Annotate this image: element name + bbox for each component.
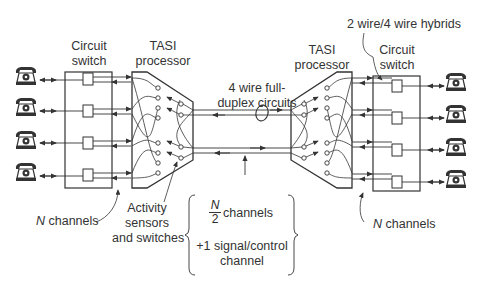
n-over-2-fraction: N 2 [209,199,221,226]
fraction-denominator: 2 [209,213,221,226]
brace-signal-label: +1 signal/control [190,239,294,254]
n-symbol: N [373,217,382,231]
n-symbol: N [36,214,45,228]
label-line: processor [136,54,191,68]
center-4wire-circuits [193,104,291,175]
right-4wire-links [352,78,392,179]
right-circuit-switch-label: Circuit switch [372,43,422,73]
label-line: duplex circuits [217,96,296,110]
left-phone-links [40,80,83,176]
right-tasi-label: TASI processor [287,43,357,73]
label-line: Circuit [71,39,106,53]
right-n-channels-label: N channels [373,217,436,232]
telephone-icon [446,73,466,91]
label-line: switch [72,54,107,68]
hybrids-label: 2 wire/4 wire hybrids [347,17,461,32]
telephone-icon [446,138,466,156]
label-line: sensors [125,216,169,230]
label-line: processor [295,58,350,72]
brace-channel-label: channel [190,254,294,269]
telephone-icon [16,131,36,149]
left-tasi-label: TASI processor [128,39,198,69]
label-line: and switches [112,231,184,245]
left-n-channels-label: N channels [36,214,99,229]
telephone-icon [16,98,36,116]
label-line: switch [380,58,415,72]
label-text: channels [45,214,99,228]
link-label: 4 wire full- duplex circuits [212,81,302,111]
telephone-icon [446,105,466,123]
activity-sensors-label: Activity sensors and switches [112,201,182,246]
fraction-numerator: N [209,199,221,213]
label-line: Circuit [379,43,414,57]
left-circuit-switch-label: Circuit switch [64,39,114,69]
label-line: 4 wire full- [229,81,286,95]
brace-channels-label: channels [223,206,273,221]
telephone-icon [16,163,36,181]
telephone-icon [446,170,466,188]
label-line: Activity [127,201,167,215]
telephone-icon [16,67,36,85]
left-tasi-processor [132,72,193,188]
label-line: TASI [150,39,177,53]
right-phone-links [402,86,444,182]
left-circuit-switch [65,72,112,188]
right-telephones [446,73,466,188]
label-text: channels [382,217,436,231]
left-telephones [16,67,36,181]
label-line: TASI [309,43,336,57]
